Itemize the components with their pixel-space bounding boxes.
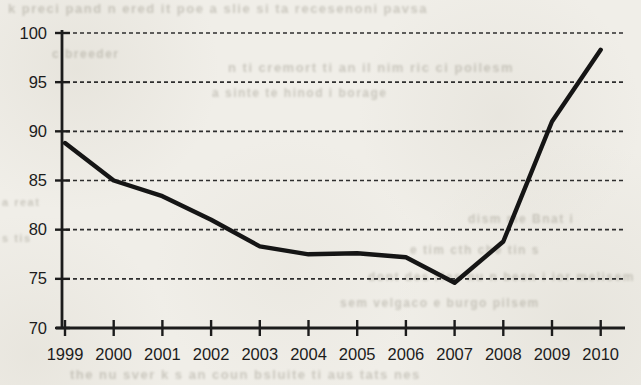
x-tick-label: 2007	[436, 345, 473, 363]
y-tick-label: 95	[29, 73, 47, 91]
x-tick-label: 2005	[339, 345, 376, 363]
line-chart-svg: 7075808590951001999200020012002200320042…	[0, 0, 641, 385]
x-tick-label: 2000	[95, 345, 132, 363]
x-tick-label: 2002	[193, 345, 230, 363]
scanned-book-page: k preci pand n ered it poe a slie si ta …	[0, 0, 641, 385]
x-tick-label: 2009	[534, 345, 571, 363]
x-tick-label: 2008	[485, 345, 522, 363]
x-tick-label: 2001	[144, 345, 181, 363]
y-tick-label: 100	[19, 24, 47, 42]
data-line	[65, 50, 601, 283]
x-tick-label: 2006	[388, 345, 425, 363]
x-tick-label: 2010	[582, 345, 619, 363]
x-tick-label: 1999	[47, 345, 84, 363]
line-chart: 7075808590951001999200020012002200320042…	[0, 0, 641, 385]
y-tick-label: 85	[29, 171, 47, 189]
y-tick-label: 75	[29, 269, 47, 287]
y-tick-label: 90	[29, 122, 47, 140]
y-tick-label: 80	[29, 220, 47, 238]
x-tick-label: 2004	[290, 345, 327, 363]
y-tick-label: 70	[29, 319, 47, 337]
x-tick-label: 2003	[241, 345, 278, 363]
